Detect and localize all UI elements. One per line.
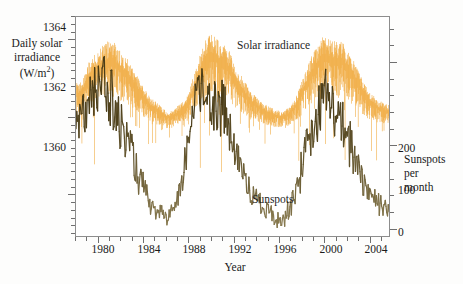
ytick-left [71,218,75,219]
ytick-left [71,171,75,172]
xtick-label-1988: 1988 [174,243,214,257]
xtick-label-1984: 1984 [129,243,169,257]
xtick [313,237,314,241]
xtick [290,237,291,241]
ytick-left [71,24,75,25]
ytick-label-right-0: 0 [398,226,426,240]
ytick-left [71,32,75,33]
xtick [109,237,110,241]
ytick-left [71,101,75,102]
ytick-label-left-1362: 1362 [34,81,66,95]
xtick [347,237,348,241]
ytick-right [390,229,397,230]
ytick-left [71,140,75,141]
ytick-left [71,109,75,110]
y-axis-title-left: Daily solar irradiance (W/m2) [2,36,72,80]
xtick [86,237,87,241]
ytick-right [390,62,397,63]
xtick [336,237,337,241]
y-axis-title-left-line3: (W/m2) [2,65,72,80]
xtick [245,237,246,241]
y-axis-title-right-line1: Sunspots [404,152,462,166]
ytick-left [71,156,75,157]
xtick-label-1996: 1996 [265,243,305,257]
ytick-right [390,179,394,180]
ytick-left [71,16,75,17]
ytick-right [390,195,394,196]
ytick-right [390,95,394,96]
annotation-sunspots: Sunspots [252,193,294,205]
ytick-right [390,129,394,130]
xtick [166,237,167,241]
ytick-left [71,132,75,133]
ytick-left [71,86,75,87]
y-axis-title-left-line1: Daily solar [2,36,72,50]
ytick-right [390,162,394,163]
xtick [154,237,155,241]
xtick-label-1992: 1992 [220,243,260,257]
xtick [177,237,178,241]
ytick-left [71,202,75,203]
ytick-right [390,112,394,113]
ytick-left [71,125,75,126]
ytick-left [68,194,75,195]
ytick-right [390,79,394,80]
y-axis-title-right: Sunspots per month [404,152,462,194]
ytick-right [390,145,397,146]
ytick-right [390,45,394,46]
annotation-solar-irradiance: Solar irradiance [237,39,310,51]
ytick-left [71,94,75,95]
y-axis-title-right-line3: month [404,180,462,194]
ytick-left [71,225,75,226]
xtick-label-1980: 1980 [83,243,123,257]
ytick-right [390,29,394,30]
xtick [358,237,359,241]
xtick [120,237,121,241]
ytick-left [71,163,75,164]
ytick-left [71,179,75,180]
xtick [222,237,223,241]
ytick-left [68,117,75,118]
xtick-label-2000: 2000 [311,243,351,257]
ytick-left [71,187,75,188]
xtick [211,237,212,241]
ytick-left [71,210,75,211]
ytick-left [71,233,75,234]
x-axis-title: Year [195,261,275,273]
xtick [132,237,133,241]
xtick [75,237,76,241]
ytick-label-left-1364: 1364 [34,21,66,35]
xtick [200,237,201,241]
ytick-right [390,212,394,213]
figure-canvas: 1364 1362 1360 Daily solar irradiance (W… [0,0,463,284]
xtick [381,237,382,241]
ytick-label-left-1360: 1360 [34,141,66,155]
xtick [268,237,269,241]
y-axis-title-left-line2: irradiance [2,50,72,64]
y-axis-title-right-line2: per [404,166,462,180]
xtick-label-2004: 2004 [356,243,396,257]
ytick-left [71,148,75,149]
series-canvas [76,17,389,236]
xtick [256,237,257,241]
xtick [302,237,303,241]
plot-area [75,16,390,237]
